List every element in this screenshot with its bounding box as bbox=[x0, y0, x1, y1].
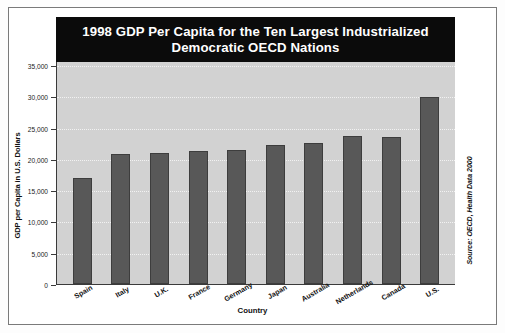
bar-series bbox=[57, 62, 455, 284]
y-axis-tick-label: 25,000 bbox=[28, 125, 48, 132]
y-axis-tick-label: 20,000 bbox=[28, 156, 48, 163]
bar bbox=[189, 151, 208, 284]
bar bbox=[150, 153, 169, 284]
x-axis-tick-label: U.K. bbox=[152, 284, 169, 299]
y-axis-tick-label: 0 bbox=[44, 282, 48, 289]
bar bbox=[382, 137, 401, 284]
source-note: Source: OECD, Health Data 2000 bbox=[462, 130, 476, 290]
chart-title-banner: 1998 GDP Per Capita for the Ten Largest … bbox=[56, 17, 455, 62]
chart-title-line-1: 1998 GDP Per Capita for the Ten Largest … bbox=[82, 24, 428, 39]
x-axis-tick-label: Italy bbox=[114, 284, 131, 299]
bar bbox=[111, 154, 130, 284]
x-axis-tick-label: France bbox=[187, 282, 212, 302]
y-axis-tick-label: 35,000 bbox=[28, 63, 48, 70]
bar bbox=[304, 143, 323, 284]
plot-area bbox=[56, 62, 455, 285]
chart-title: 1998 GDP Per Capita for the Ten Largest … bbox=[76, 24, 434, 56]
bar bbox=[420, 97, 439, 284]
chart-figure: 1998 GDP Per Capita for the Ten Largest … bbox=[0, 0, 505, 333]
bar bbox=[343, 136, 362, 284]
y-axis-tick-label: 5,000 bbox=[31, 250, 48, 257]
x-axis-tick-label: Japan bbox=[266, 283, 288, 301]
x-axis-title: Country bbox=[0, 306, 505, 315]
y-axis-tick-label: 15,000 bbox=[28, 188, 48, 195]
x-axis-tick-label: U.S. bbox=[423, 285, 440, 300]
bar bbox=[227, 150, 246, 284]
chart-title-line-2: Democratic OECD Nations bbox=[172, 40, 340, 55]
y-axis-tick-label: 10,000 bbox=[28, 219, 48, 226]
y-axis: 35,00030,00025,00020,00015,00010,0005,00… bbox=[0, 62, 56, 286]
y-axis-tick-label: 30,000 bbox=[28, 94, 48, 101]
x-axis-tick-label: Spain bbox=[73, 283, 94, 301]
bar bbox=[73, 178, 92, 284]
bar bbox=[266, 145, 285, 284]
